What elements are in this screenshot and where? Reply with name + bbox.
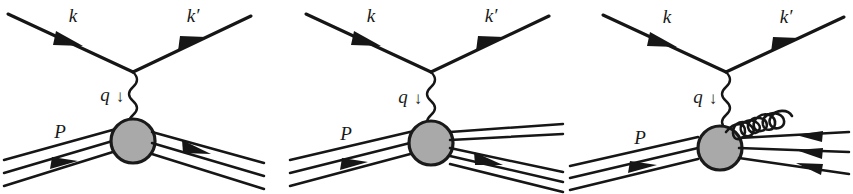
proton-label: P [53,121,66,142]
outgoing-lepton-label: k′ [485,5,498,26]
incoming-lepton-label: k [663,6,672,27]
outgoing-parton-arrowhead [796,131,823,142]
feynman-diagram-figure: k k′ q ↓ P [0,0,853,194]
outgoing-parton-line [739,148,849,152]
outgoing-lepton-arrowhead [476,36,504,51]
outgoing-parton-arrowhead [796,163,823,175]
outgoing-parton-line [450,124,563,132]
exchanged-boson-label: q [100,84,110,105]
boson-direction-arrow-icon: ↓ [116,87,125,106]
outgoing-lepton-arrowhead [178,36,206,51]
outgoing-lepton-label: k′ [780,6,793,27]
exchanged-boson-label: q [693,86,703,107]
diagram-panel-1: k k′ q ↓ P [0,0,285,194]
hadron-blob [409,121,453,165]
outgoing-parton-line [450,134,563,140]
exchanged-boson-label: q [398,86,408,107]
incoming-lepton-label: k [69,5,78,26]
hadron-blob [698,126,742,170]
diagram-panel-2: k k′ q ↓ P [284,0,569,194]
incoming-lepton-arrowhead [53,31,83,46]
incoming-lepton-label: k [367,5,376,26]
boson-direction-arrow-icon: ↓ [709,89,718,108]
proton-label: P [339,123,352,144]
outgoing-lepton-arrowhead [771,37,799,52]
outgoing-parton-line [739,158,849,174]
boson-direction-arrow-icon: ↓ [414,89,423,108]
incoming-lepton-arrowhead [351,31,381,46]
diagram-panel-3: k k′ q ↓ P [568,0,853,194]
proton-label: P [633,127,646,148]
hadron-blob [111,119,155,163]
outgoing-lepton-label: k′ [187,5,200,26]
incoming-lepton-arrowhead [647,32,677,47]
